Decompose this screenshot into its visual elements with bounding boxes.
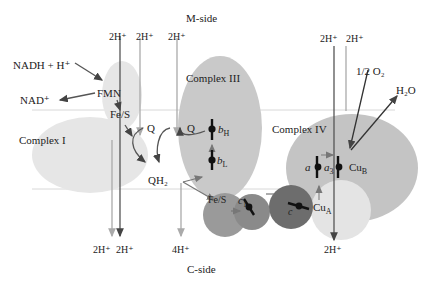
- h2o-label: H₂O: [396, 84, 416, 96]
- complex-1: [32, 61, 148, 193]
- proton-bottom-3: 4H⁺: [172, 244, 190, 255]
- fmn-label: FMN: [97, 87, 121, 99]
- proton-bottom-4: 2H⁺: [324, 244, 342, 255]
- proton-bottom-2: 2H⁺: [116, 244, 134, 255]
- q-2-label: Q: [187, 122, 195, 134]
- proton-bottom-1: 2H⁺: [93, 244, 111, 255]
- c-label: c: [288, 206, 293, 217]
- proton-top-4: 2H⁺: [320, 33, 338, 44]
- proton-top-5: 2H⁺: [346, 33, 364, 44]
- nadh-label: NADH + H⁺: [13, 59, 70, 71]
- nad-arrow: [60, 93, 95, 100]
- proton-top-1: 2H⁺: [109, 31, 127, 42]
- fes-1-label: Fe/S: [110, 108, 130, 120]
- c-side-label: C-side: [187, 263, 216, 275]
- qh2-label: QH₂: [148, 174, 168, 186]
- a-label: a: [305, 161, 311, 173]
- m-side-label: M-side: [186, 12, 217, 24]
- complex-4-label: Complex IV: [272, 123, 327, 135]
- fes-2-label: Fe/S: [208, 194, 226, 205]
- nad-label: NAD⁺: [20, 94, 50, 106]
- nadh-arrow: [75, 63, 102, 80]
- proton-top-2: 2H⁺: [136, 31, 154, 42]
- proton-top-3: 2H⁺: [168, 31, 186, 42]
- q-1-label: Q: [147, 122, 155, 134]
- o2-label: 1/2 O₂: [356, 65, 385, 77]
- etc-diagram: M-side C-side 2H⁺ 2H⁺ 2H⁺ 2H⁺ 2H⁺ 2H⁺ 2H…: [0, 0, 428, 281]
- complex-3-label: Complex III: [186, 72, 240, 84]
- q-qh2-arrow-2: [157, 128, 170, 162]
- complex-1-label: Complex I: [19, 134, 66, 146]
